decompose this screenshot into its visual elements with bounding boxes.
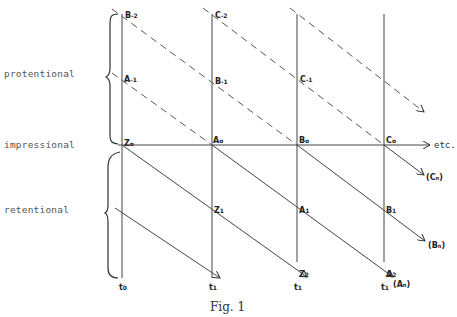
- label-B1: B1: [386, 206, 396, 215]
- retention-line-lower: [115, 208, 220, 278]
- label-A2: A2: [386, 270, 396, 279]
- label-Cn: (Cₙ): [426, 173, 443, 182]
- label-Z2: Z2: [299, 270, 309, 279]
- label-Z1: Z1: [214, 206, 224, 215]
- protention-line-C: [203, 8, 384, 145]
- label-A1: A1: [299, 206, 309, 215]
- label-Bn: (Bₙ): [428, 241, 445, 250]
- retentional-brace: [105, 152, 120, 278]
- protention-line-B: [112, 9, 297, 145]
- etc-label: etc.: [434, 140, 456, 150]
- label-A-1: A-1: [124, 75, 137, 84]
- label-C0: Co: [386, 136, 396, 145]
- retention-line-C: [384, 145, 424, 175]
- protentional-brace: [106, 14, 118, 144]
- label-A0: Ao: [213, 136, 223, 145]
- label-C-1: C-1: [300, 75, 313, 84]
- protention-line-top: [290, 8, 424, 112]
- label-C-2: C-2: [215, 11, 228, 20]
- impressional-label: impressional: [4, 139, 75, 150]
- label-B-2: B-2: [125, 11, 138, 20]
- time-label-t3-extra: (Aₙ): [393, 280, 410, 289]
- retention-line-B: [297, 145, 425, 241]
- time-label-t3: t1: [381, 283, 389, 292]
- label-B-1: B-1: [215, 77, 228, 86]
- protentional-label: protentional: [4, 68, 75, 79]
- time-diagram: protentional impressional retentional et…: [0, 0, 457, 317]
- label-B0: Bo: [299, 136, 309, 145]
- retentional-label: retentional: [4, 204, 69, 215]
- time-label-t0: t0: [119, 283, 127, 292]
- time-label-t2: t1: [294, 283, 302, 292]
- figure-caption: Fig. 1: [210, 300, 245, 314]
- time-label-t1: t1: [209, 283, 217, 292]
- label-Z0: Zo: [124, 139, 134, 148]
